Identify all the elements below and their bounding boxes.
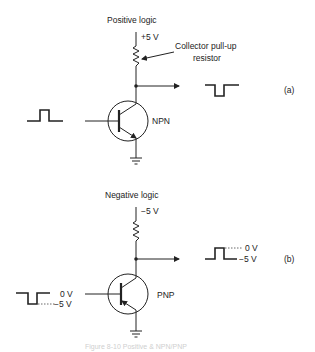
pull-up-resistor-a: [133, 46, 139, 66]
npn-collector-leg: [119, 104, 136, 115]
annotation-arrow: [142, 52, 174, 59]
pnp-emitter-arrow: [122, 301, 136, 310]
panel-b: Negative logic −5 V 0 V −5 V (b) PNP 0 V…: [16, 190, 295, 337]
supply-label-b: −5 V: [141, 206, 159, 216]
panel-b-tag: (b): [284, 254, 295, 264]
panel-a-tag: (a): [284, 85, 295, 95]
pnp-label: PNP: [157, 290, 175, 300]
logic-circuits-diagram: Positive logic +5 V Collector pull-up re…: [0, 0, 315, 352]
supply-label-a: +5 V: [141, 32, 159, 42]
output-low-label: −5 V: [239, 254, 257, 264]
output-pulse-b: [205, 248, 237, 259]
figure-caption: Figure 8-10 Positive & NPN/PNP: [85, 343, 187, 351]
ground-icon-a: [130, 158, 142, 164]
pnp-collector-leg: [121, 278, 136, 288]
annotation-line1: Collector pull-up: [175, 41, 237, 51]
output-pulse-a: [205, 85, 239, 96]
annotation-line2: resistor: [193, 53, 221, 63]
ground-icon-b: [130, 331, 142, 337]
input-pulse-a: [27, 110, 63, 121]
input-pulse-b: [16, 293, 50, 304]
npn-emitter-arrow: [119, 127, 136, 138]
resistor-b: [133, 221, 139, 241]
panel-a: Positive logic +5 V Collector pull-up re…: [27, 15, 295, 164]
panel-a-title: Positive logic: [107, 15, 157, 25]
npn-label: NPN: [152, 116, 170, 126]
input-high-label: 0 V: [60, 289, 73, 299]
panel-b-title: Negative logic: [105, 190, 159, 200]
output-high-label: 0 V: [245, 243, 258, 253]
input-low-label: −5 V: [54, 299, 72, 309]
